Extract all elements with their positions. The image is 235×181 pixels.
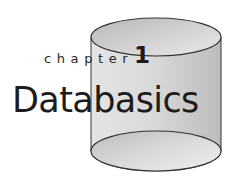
chapter-title: Databasics: [12, 80, 199, 120]
chapter-label: chapter: [44, 52, 133, 65]
chapter-title-page: chapter 1 Databasics: [0, 0, 235, 181]
chapter-number: 1: [134, 44, 150, 67]
